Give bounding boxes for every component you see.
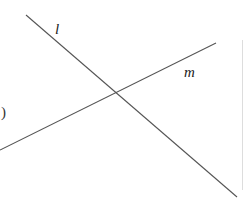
label-fragment: ): [1, 104, 6, 121]
intersecting-lines-diagram: l m ): [0, 0, 244, 199]
line-l: [26, 15, 237, 197]
line-m: [0, 43, 216, 150]
label-l: l: [55, 21, 59, 37]
label-m: m: [184, 64, 195, 80]
